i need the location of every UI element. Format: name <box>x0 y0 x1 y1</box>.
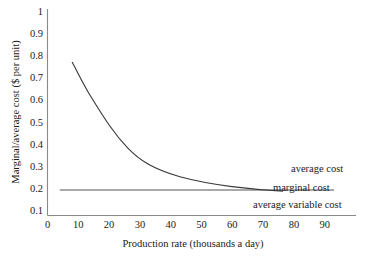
x-tick-label: 60 <box>227 219 238 230</box>
x-tick-label: 80 <box>289 219 300 230</box>
series-labels: average cost marginal cost average varia… <box>253 163 343 210</box>
chart-svg: 1 0.9 0.8 0.7 0.6 0.5 0.4 0.3 0.2 0.1 0 … <box>0 0 367 265</box>
x-tick-labels: 0 10 20 30 40 50 60 70 80 90 <box>45 219 330 230</box>
average-cost-curve <box>72 62 283 191</box>
series-label-average-cost: average cost <box>291 163 343 174</box>
x-tick-label: 20 <box>104 219 115 230</box>
series-label-marginal-cost: marginal cost <box>273 182 330 193</box>
y-tick-label: 0.8 <box>30 50 43 61</box>
x-tick-label: 70 <box>258 219 269 230</box>
x-tick-label: 50 <box>196 219 207 230</box>
y-axis-title: Marginal/average cost ($ per unit) <box>10 40 22 184</box>
y-tick-label: 0.6 <box>30 94 43 105</box>
y-tick-label: 0.1 <box>30 205 43 216</box>
x-tick-label: 0 <box>45 219 50 230</box>
y-tick-label: 0.9 <box>30 28 43 39</box>
y-tick-label: 0.4 <box>30 139 44 150</box>
y-tick-label: 1 <box>38 6 43 17</box>
x-tick-label: 40 <box>165 219 176 230</box>
y-tick-labels: 1 0.9 0.8 0.7 0.6 0.5 0.4 0.3 0.2 0.1 <box>30 6 44 217</box>
y-tick-label: 0.2 <box>30 183 43 194</box>
series-average-cost-curve <box>72 62 283 191</box>
y-tick-label: 0.3 <box>30 161 43 172</box>
x-tick-label: 10 <box>73 219 84 230</box>
x-tick-label: 30 <box>135 219 146 230</box>
y-tick-label: 0.7 <box>30 72 43 83</box>
cost-curves-chart: 1 0.9 0.8 0.7 0.6 0.5 0.4 0.3 0.2 0.1 0 … <box>0 0 367 265</box>
series-label-average-variable-cost: average variable cost <box>253 199 342 210</box>
y-tick-label: 0.5 <box>30 117 43 128</box>
x-axis-title: Production rate (thousands a day) <box>122 238 264 250</box>
x-tick-label: 90 <box>319 219 330 230</box>
